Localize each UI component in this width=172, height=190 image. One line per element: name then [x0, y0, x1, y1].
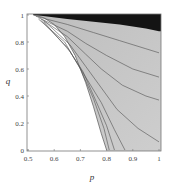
x-tick-label: 1: [157, 155, 161, 163]
x-tick-label: 0.5: [24, 155, 33, 163]
y-axis-label: q: [6, 76, 11, 86]
filled-region: [33, 8, 172, 157]
x-tick-label: 0.6: [50, 155, 59, 163]
x-tick-label: 0.8: [102, 155, 111, 163]
x-tick-label: 0.9: [128, 155, 137, 163]
x-tick-label: 0.7: [76, 155, 85, 163]
plot-area: [33, 8, 172, 157]
y-tick-label: 1: [21, 12, 25, 20]
y-tick-label: 0.2: [15, 120, 24, 128]
y-tick-label: 0.6: [15, 66, 24, 74]
contour-plot: 0.50.60.70.80.91 00.20.40.60.81 p q: [0, 0, 172, 190]
y-tick-label: 0.8: [15, 39, 24, 47]
x-axis-label: p: [89, 172, 95, 182]
y-tick-label: 0.4: [15, 93, 24, 101]
y-tick-label: 0: [21, 147, 25, 155]
